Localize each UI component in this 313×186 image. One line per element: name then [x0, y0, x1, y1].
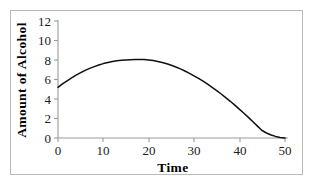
y-tick-label-4: 4 [45, 92, 52, 107]
y-tick-label-10: 10 [38, 33, 51, 48]
y-tick-label-8: 8 [45, 53, 52, 68]
x-tick-label-20: 20 [143, 143, 156, 158]
x-tick-label-0: 0 [55, 143, 62, 158]
y-axis-title: Amount of Alcohol [14, 22, 29, 138]
y-tick-label-2: 2 [45, 111, 52, 126]
x-axis-ticks [58, 138, 285, 142]
alcohol-vs-time-chart: 0 2 4 6 8 10 12 0 10 20 30 40 50 Time Am… [0, 0, 313, 186]
y-axis-ticks [54, 21, 58, 138]
x-tick-labels: 0 10 20 30 40 50 [55, 143, 292, 158]
chart-figure: 0 2 4 6 8 10 12 0 10 20 30 40 50 Time Am… [0, 0, 313, 186]
alcohol-curve [58, 59, 285, 138]
x-tick-label-40: 40 [234, 143, 247, 158]
x-tick-label-50: 50 [279, 143, 292, 158]
x-axis-title: Time [157, 160, 188, 175]
y-tick-label-0: 0 [45, 131, 52, 146]
x-tick-label-30: 30 [188, 143, 201, 158]
x-tick-label-10: 10 [97, 143, 110, 158]
y-tick-labels: 0 2 4 6 8 10 12 [38, 14, 52, 146]
y-tick-label-6: 6 [45, 72, 52, 87]
y-tick-label-12: 12 [38, 14, 51, 29]
